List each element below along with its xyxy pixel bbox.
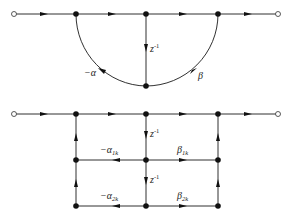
node	[143, 157, 149, 163]
node	[215, 157, 221, 163]
arrow-icon	[112, 158, 120, 162]
arrow-icon	[216, 179, 220, 187]
arrow-icon	[179, 112, 187, 116]
input-terminal	[12, 112, 17, 117]
delay-label-1: z-1	[149, 127, 159, 139]
arrow-icon	[190, 68, 197, 74]
delay-label: z-1	[149, 42, 159, 54]
arrow-icon	[98, 68, 106, 74]
arrow-icon	[112, 204, 120, 208]
node	[143, 83, 149, 89]
signal-flow-graphs: z-1 −α β	[0, 0, 288, 216]
arrow-icon	[179, 12, 187, 16]
diagram-top: z-1 −α β	[12, 11, 281, 89]
alpha-1k-label: −α1k	[100, 144, 118, 156]
arrow-icon	[244, 12, 252, 16]
arrow-icon	[40, 12, 48, 16]
arrow-icon	[74, 133, 78, 141]
output-terminal	[276, 112, 281, 117]
arrow-icon	[216, 133, 220, 141]
feedforward-arc	[146, 14, 218, 86]
node	[143, 111, 149, 117]
node	[73, 111, 79, 117]
feedforward-coefficient: β	[197, 70, 203, 81]
alpha-2k-label: −α2k	[100, 190, 118, 202]
node	[73, 157, 79, 163]
arrow-icon	[40, 112, 48, 116]
node	[143, 11, 149, 17]
arrow-icon	[108, 12, 116, 16]
delay-label-2: z-1	[149, 173, 159, 185]
arrow-icon	[179, 158, 187, 162]
feedback-coefficient: −α	[84, 67, 97, 78]
output-terminal	[276, 12, 281, 17]
diagram-bottom: z-1 z-1 −α1k −α2k β1k β2k	[12, 111, 281, 209]
arrow-icon	[144, 44, 148, 52]
arrow-icon	[179, 204, 187, 208]
arrow-icon	[74, 179, 78, 187]
node	[73, 203, 79, 209]
beta-1k-label: β1k	[176, 144, 188, 156]
node	[215, 11, 221, 17]
node	[143, 203, 149, 209]
node	[215, 203, 221, 209]
arrow-icon	[144, 177, 148, 185]
arrow-icon	[108, 112, 116, 116]
arrow-icon	[144, 131, 148, 139]
input-terminal	[12, 12, 17, 17]
node	[215, 111, 221, 117]
arrow-icon	[244, 112, 252, 116]
beta-2k-label: β2k	[176, 190, 188, 202]
node	[73, 11, 79, 17]
